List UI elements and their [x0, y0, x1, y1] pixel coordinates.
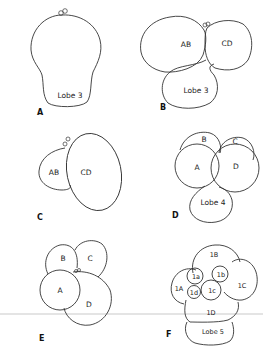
panel-d: B C A D Lobe 4 D	[172, 132, 259, 222]
panel-a: Lobe 3 A	[31, 9, 101, 117]
cell-label: A	[194, 163, 200, 172]
cell-label: C	[87, 254, 92, 263]
panel-label-c: C	[37, 213, 43, 222]
panel-f: 1B 1a 1b 1C 1A 1d 1c 1D Lobe 5 F	[166, 245, 257, 345]
cell-label: D	[86, 300, 92, 309]
panel-label-f: F	[166, 330, 171, 339]
panel-e: B C A D E	[39, 241, 111, 343]
cell-label: 1C	[238, 282, 247, 290]
cell-1c	[224, 259, 257, 300]
cell-b	[180, 132, 221, 153]
cell-label: D	[233, 162, 239, 171]
panel-b: AB CD Lobe 3 B	[141, 16, 252, 112]
cell-label: 1A	[175, 285, 184, 293]
cell-label: A	[57, 286, 63, 295]
cell-label: AB	[49, 168, 59, 177]
cell-label: 1D	[206, 309, 215, 317]
cell-label: 1B	[210, 251, 219, 259]
cell-label: 1c	[208, 287, 216, 295]
cell-label: B	[201, 135, 206, 144]
cell-d	[64, 272, 111, 326]
cell-label: 1d	[190, 289, 198, 297]
panel-label-d: D	[172, 211, 179, 220]
cell-label: CD	[80, 168, 91, 177]
polar-body-icon	[78, 269, 81, 272]
cell-label: CD	[221, 39, 232, 48]
cell-cd	[59, 128, 128, 216]
polar-body-icon	[66, 137, 70, 141]
panel-label-e: E	[39, 334, 44, 343]
cleavage-diagram: Lobe 3 A AB CD Lobe 3 B AB CD C B C A D …	[0, 0, 263, 351]
cell-label: 1b	[217, 271, 225, 279]
cell-label: B	[60, 254, 65, 263]
cell-label: Lobe 4	[200, 198, 225, 207]
polar-body-icon	[63, 142, 67, 146]
cell-label: Lobe 3	[57, 91, 82, 100]
panel-label-a: A	[37, 108, 44, 117]
cell-label: C	[232, 137, 237, 146]
polar-body-icon	[63, 9, 68, 14]
cell-label: AB	[181, 40, 191, 49]
panel-c: AB CD C	[37, 128, 129, 222]
panel-label-b: B	[160, 103, 166, 112]
cell-label: 1a	[192, 273, 200, 281]
cell-label: Lobe 3	[183, 86, 208, 95]
cell-label: Lobe 5	[202, 328, 224, 336]
